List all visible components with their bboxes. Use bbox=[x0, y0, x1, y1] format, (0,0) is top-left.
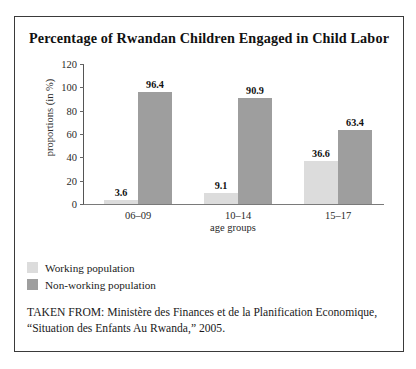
page-title: Percentage of Rwandan Children Engaged i… bbox=[15, 30, 403, 47]
legend-swatch-icon bbox=[27, 262, 38, 273]
y-axis-tick-mark bbox=[80, 111, 84, 112]
plot-area: 3.696.406–099.190.910–1436.663.415–17 bbox=[83, 64, 384, 205]
y-axis-tick-mark bbox=[80, 204, 84, 205]
chart-legend: Working populationNon-working population bbox=[27, 260, 327, 294]
bar-value-label: 96.4 bbox=[146, 79, 164, 90]
y-axis-tick-mark bbox=[80, 181, 84, 182]
bar-group: 36.663.415–17 bbox=[300, 64, 384, 204]
source-note: TAKEN FROM: Ministère des Finances et de… bbox=[27, 305, 391, 338]
y-axis-tick-label: 120 bbox=[47, 59, 77, 70]
chart-plot-region: proportions (in %) 020406080100120 3.696… bbox=[33, 64, 389, 236]
y-axis-tick-mark bbox=[80, 157, 84, 158]
y-axis-tick-mark bbox=[80, 64, 84, 65]
bar-nonworking[interactable]: 96.4 bbox=[138, 92, 172, 204]
bar-working[interactable]: 3.6 bbox=[104, 200, 138, 204]
legend-item[interactable]: Non-working population bbox=[27, 277, 327, 292]
x-axis-group-label: 06–09 bbox=[125, 210, 151, 221]
bar-nonworking[interactable]: 90.9 bbox=[238, 98, 272, 204]
x-axis-group-label: 10–14 bbox=[225, 210, 251, 221]
y-axis-tick-mark bbox=[80, 87, 84, 88]
bar-value-label: 90.9 bbox=[246, 85, 264, 96]
bar-working[interactable]: 9.1 bbox=[204, 193, 238, 204]
bar-group: 9.190.910–14 bbox=[200, 64, 284, 204]
y-axis-tick-labels: 020406080100120 bbox=[47, 64, 77, 204]
bars-layer: 3.696.406–099.190.910–1436.663.415–17 bbox=[84, 64, 384, 204]
bar-value-label: 9.1 bbox=[215, 180, 228, 191]
y-axis-tick-label: 80 bbox=[47, 105, 77, 116]
x-axis-title: age groups bbox=[83, 222, 383, 233]
y-axis-tick-label: 60 bbox=[47, 129, 77, 140]
y-axis-tick-label: 100 bbox=[47, 82, 77, 93]
bar-value-label: 36.6 bbox=[312, 148, 330, 159]
bar-group: 3.696.406–09 bbox=[100, 64, 184, 204]
y-axis-tick-label: 20 bbox=[47, 175, 77, 186]
legend-item[interactable]: Working population bbox=[27, 260, 327, 275]
bar-nonworking[interactable]: 63.4 bbox=[338, 130, 372, 204]
x-axis-group-label: 15–17 bbox=[325, 210, 351, 221]
bar-value-label: 63.4 bbox=[346, 117, 364, 128]
y-axis-tick-mark bbox=[80, 134, 84, 135]
legend-label: Non-working population bbox=[45, 279, 156, 291]
legend-swatch-icon bbox=[27, 279, 38, 290]
y-axis-tick-label: 0 bbox=[47, 199, 77, 210]
bar-value-label: 3.6 bbox=[115, 187, 128, 198]
figure-card: Percentage of Rwandan Children Engaged i… bbox=[14, 16, 404, 352]
bar-working[interactable]: 36.6 bbox=[304, 161, 338, 204]
y-axis-tick-label: 40 bbox=[47, 152, 77, 163]
legend-label: Working population bbox=[45, 262, 135, 274]
